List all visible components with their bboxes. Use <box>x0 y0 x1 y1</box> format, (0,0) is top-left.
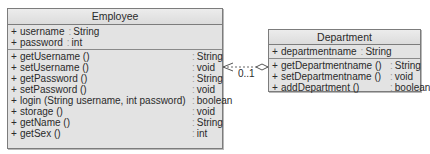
aggregation-diamond-icon <box>256 64 268 70</box>
aggregation-connector[interactable] <box>0 0 430 154</box>
multiplicity-label: 0..1 <box>238 68 255 79</box>
